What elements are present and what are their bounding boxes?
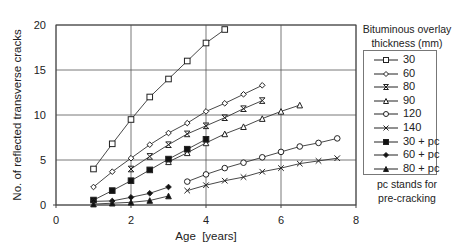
x-tick-label: 6 <box>278 214 284 226</box>
legend-label: 30 <box>403 53 415 67</box>
legend-marker-icon <box>372 149 400 161</box>
legend-title-line1: Bituminous overlay <box>356 22 458 36</box>
x-tick-label: 0 <box>53 214 59 226</box>
x-tick-label: 8 <box>353 214 359 226</box>
legend-note-line2: pre-cracking <box>356 191 458 205</box>
y-tick-label: 10 <box>34 109 46 121</box>
y-tick-label: 20 <box>34 19 46 31</box>
legend-label: 60 <box>403 67 415 81</box>
legend-item: 120 <box>364 107 438 121</box>
legend-marker-icon <box>372 81 400 93</box>
legend-marker-icon <box>372 54 400 66</box>
y-axis-label: No. of reflected transverse cracks <box>11 29 23 201</box>
legend-item: 60 + pc <box>364 148 438 162</box>
legend-label: 60 + pc <box>403 148 439 162</box>
legend-item: 80 <box>364 80 438 94</box>
legend-annotation: pc stands for pre-cracking <box>356 177 458 205</box>
plot-series <box>91 27 340 207</box>
legend-title-line2: thickness (mm) <box>356 36 458 50</box>
legend-label: 30 + pc <box>403 135 439 149</box>
series-60 <box>91 83 265 190</box>
legend-label: 140 <box>403 121 421 135</box>
legend-label: 90 <box>403 94 415 108</box>
legend-note-line1: pc stands for <box>356 177 458 191</box>
legend-item: 30 + pc <box>364 135 438 149</box>
legend-marker-icon <box>372 136 400 148</box>
legend: 3060809012014030 + pc60 + pc80 + pc <box>363 50 437 175</box>
legend-label: 80 <box>403 80 415 94</box>
plot-axes: 0510152002468 <box>34 19 359 226</box>
x-axis-label: Age [years] <box>175 230 236 242</box>
legend-marker-icon <box>372 68 400 80</box>
legend-item: 30 <box>364 53 438 67</box>
legend-item: 90 <box>364 94 438 108</box>
legend-marker-icon <box>372 163 400 175</box>
plot-grid <box>56 25 356 205</box>
legend-item: 60 <box>364 67 438 81</box>
legend-label: 120 <box>403 107 421 121</box>
x-tick-label: 2 <box>128 214 134 226</box>
legend-marker-icon <box>372 122 400 134</box>
x-tick-label: 4 <box>203 214 209 226</box>
y-tick-label: 5 <box>40 154 46 166</box>
legend-title: Bituminous overlay thickness (mm) <box>356 22 458 50</box>
legend-item: 140 <box>364 121 438 135</box>
y-tick-label: 0 <box>40 199 46 211</box>
legend-marker-icon <box>372 95 400 107</box>
legend-label: 80 + pc <box>403 162 439 176</box>
legend-item: 80 + pc <box>364 162 438 176</box>
y-tick-label: 15 <box>34 64 46 76</box>
legend-marker-icon <box>372 108 400 120</box>
